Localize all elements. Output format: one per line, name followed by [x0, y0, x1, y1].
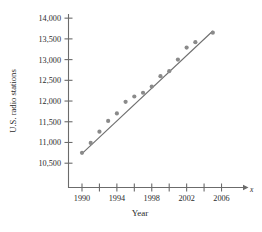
data-point	[115, 111, 119, 115]
data-point	[141, 91, 145, 95]
data-point	[185, 45, 189, 49]
data-point	[124, 100, 128, 104]
y-tick-label-group: 10,50011,00011,50012,00012,50013,00013,5…	[38, 14, 61, 168]
data-point	[132, 94, 136, 98]
x-tick-label: 1990	[74, 194, 90, 203]
y-tick-label: 13,500	[38, 35, 61, 44]
x-axis-title: Year	[132, 208, 149, 218]
regression-line	[82, 31, 213, 154]
data-point	[193, 40, 197, 44]
data-point	[89, 141, 93, 145]
y-tick-label: 11,500	[39, 118, 61, 127]
data-point	[158, 74, 162, 78]
data-point	[176, 58, 180, 62]
data-point	[106, 119, 110, 123]
x-tick-label-group: 19901994199820022006	[74, 194, 230, 203]
data-point	[167, 69, 171, 73]
x-tick-label: 2002	[178, 194, 194, 203]
y-tick-label: 11,000	[39, 138, 61, 147]
x-tick-label: 1998	[144, 194, 160, 203]
chart-figure: 10,50011,00011,50012,00012,50013,00013,5…	[0, 0, 262, 232]
x-tick-label: 2006	[213, 194, 229, 203]
data-point	[211, 31, 215, 35]
x-tick-label: 1994	[109, 194, 125, 203]
y-tick-label: 12,500	[38, 76, 61, 85]
y-tick-label: 12,000	[38, 97, 61, 106]
y-tick-label: 13,000	[38, 56, 61, 65]
y-axis-title: U.S. radio stations	[8, 69, 18, 133]
y-tick-label: 10,500	[38, 159, 61, 168]
data-point	[80, 151, 84, 155]
scatter-plot-canvas: 10,50011,00011,50012,00012,50013,00013,5…	[0, 0, 262, 232]
data-point	[97, 130, 101, 134]
y-tick-label: 14,000	[38, 14, 61, 23]
data-point	[150, 84, 154, 88]
x-axis-variable-label: x	[249, 185, 254, 194]
regression-line-group	[82, 31, 213, 154]
x-axis-arrow-icon	[243, 185, 249, 190]
